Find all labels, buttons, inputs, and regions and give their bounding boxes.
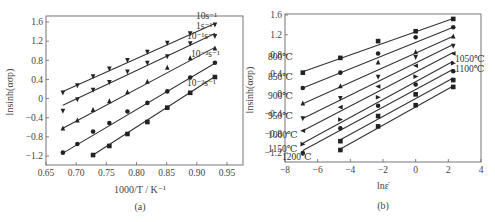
- series-label: 1100℃: [455, 64, 485, 74]
- data-point-triangle-up: [107, 98, 112, 103]
- fit-line: [93, 77, 215, 155]
- data-point-square: [107, 144, 112, 149]
- y-tick-label: −0.8: [26, 132, 43, 142]
- data-point-square: [413, 103, 418, 108]
- x-tick-label: −2: [378, 165, 388, 175]
- y-axis-label-a: lnsinh(ασp): [4, 69, 16, 116]
- data-point-circle: [301, 86, 306, 91]
- series-label: 1s⁻¹: [196, 21, 212, 31]
- data-point-square: [91, 153, 96, 158]
- x-tick-label: 0.75: [98, 168, 115, 178]
- fit-line: [340, 86, 453, 149]
- data-point-square: [451, 78, 456, 83]
- data-point-triangle-down: [213, 23, 218, 28]
- x-tick-label: 0.95: [219, 168, 236, 178]
- data-point-square: [145, 120, 150, 125]
- data-point-square: [451, 17, 456, 22]
- series-group-b: [300, 17, 456, 156]
- data-point-square: [451, 85, 456, 90]
- series-label: 900℃: [268, 91, 293, 101]
- data-point-circle: [413, 35, 418, 40]
- data-point-circle: [91, 129, 96, 134]
- data-point-triangle-up: [376, 60, 381, 65]
- data-point-square: [338, 56, 343, 61]
- data-point-square: [376, 124, 381, 129]
- x-tick-label: 0.85: [158, 168, 175, 178]
- data-point-triangle-left: [375, 84, 380, 89]
- data-point-triangle-right: [413, 74, 418, 79]
- y-tick-label: −0.4: [26, 113, 43, 123]
- series-label: 10⁻³s⁻¹: [187, 78, 216, 88]
- x-tick-label: 0.65: [38, 168, 55, 178]
- data-point-triangle-down: [61, 109, 66, 114]
- series-label: 850℃: [268, 72, 293, 82]
- figure: 0.650.700.750.800.850.900.951.61.20.80.4…: [0, 0, 495, 222]
- data-point-square: [338, 148, 343, 153]
- y-tick-label: 1.2: [31, 36, 43, 46]
- x-axis-label-b: lnε̇: [377, 180, 390, 191]
- data-point-triangle-down: [376, 75, 381, 80]
- y-tick-label: 1.2: [270, 30, 282, 40]
- series-label: 10⁻¹s⁻¹: [187, 31, 216, 41]
- x-tick-label: 0: [413, 165, 418, 175]
- series-label: 800℃: [268, 52, 293, 62]
- data-point-circle: [213, 60, 218, 65]
- data-point-square: [413, 92, 418, 97]
- series-2: [301, 33, 456, 105]
- data-point-triangle-up: [91, 107, 96, 112]
- fit-line: [303, 61, 453, 143]
- data-point-triangle-down: [451, 44, 456, 49]
- caption-b: (b): [377, 200, 389, 212]
- data-point-square: [165, 105, 170, 110]
- fit-line: [303, 36, 453, 104]
- data-point-circle: [376, 103, 381, 108]
- data-point-triangle-down: [301, 116, 306, 121]
- data-point-triangle-down: [413, 55, 418, 60]
- data-point-circle: [413, 82, 418, 87]
- data-point-square: [376, 114, 381, 119]
- data-point-circle: [61, 150, 66, 155]
- data-point-triangle-up: [451, 33, 456, 38]
- series-8: [338, 85, 455, 153]
- series-1: [61, 33, 218, 113]
- y-tick-label: 1.6: [31, 17, 43, 27]
- chart-a: 0.650.700.750.800.850.900.951.61.20.80.4…: [4, 11, 243, 213]
- data-point-square: [376, 39, 381, 44]
- x-tick-label: −8: [280, 165, 290, 175]
- y-tick-label: 0.8: [31, 56, 43, 66]
- y-tick-label: 0.4: [31, 75, 43, 85]
- data-point-circle: [165, 89, 170, 94]
- x-tick-label: 4: [479, 165, 484, 175]
- data-point-circle: [451, 25, 456, 30]
- y-axis-label-b: lnsinh(ασp): [244, 67, 256, 114]
- series-label: 10s⁻¹: [196, 11, 217, 21]
- data-point-square: [301, 70, 306, 75]
- series-group-a: [61, 23, 218, 158]
- series-label: 1200℃: [282, 152, 312, 162]
- x-axis-label-a: 1000/T / K⁻¹: [114, 184, 166, 195]
- data-point-circle: [125, 109, 130, 114]
- series-7: [338, 78, 455, 144]
- data-point-square: [125, 132, 130, 137]
- data-point-triangle-left: [300, 129, 305, 134]
- data-point-circle: [145, 101, 150, 106]
- data-point-triangle-up: [125, 89, 130, 94]
- axis-ticks-a: 0.650.700.750.800.850.900.951.61.20.80.4…: [26, 17, 236, 178]
- data-point-triangle-up: [165, 65, 170, 70]
- data-point-triangle-right: [376, 95, 381, 100]
- data-point-triangle-up: [145, 79, 150, 84]
- x-tick-label: 2: [446, 165, 451, 175]
- y-tick-label: 0: [38, 94, 43, 104]
- data-point-triangle-left: [338, 105, 343, 110]
- axis-ticks-b: −8−6−4−20241.61.20.80.40−0.4−0.8−1.2: [265, 10, 484, 175]
- data-point-circle: [338, 126, 343, 131]
- x-tick-label: 0.70: [68, 168, 85, 178]
- series-label: 1050℃: [455, 54, 485, 64]
- data-point-square: [188, 91, 193, 96]
- caption-a: (a): [134, 201, 145, 213]
- series-3: [61, 60, 218, 155]
- series-label: 950℃: [268, 111, 293, 121]
- data-point-square: [413, 29, 418, 34]
- fit-line: [340, 78, 453, 140]
- data-point-circle: [338, 70, 343, 75]
